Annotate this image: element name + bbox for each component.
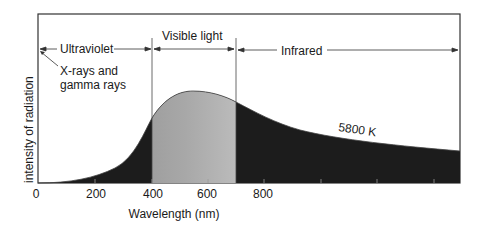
x-tick-600: 600 xyxy=(197,187,217,201)
curve-temperature-label: 5800 K xyxy=(338,120,378,139)
x-tick-800: 800 xyxy=(253,187,273,201)
x-tick-200: 200 xyxy=(86,187,106,201)
blackbody-chart: Ultraviolet Visible light Infrared X-ray… xyxy=(0,0,484,230)
xrays-label-line1: X-rays and xyxy=(60,64,118,78)
x-axis-label: Wavelength (nm) xyxy=(129,207,220,221)
xrays-label-line2: gamma rays xyxy=(60,78,126,92)
ultraviolet-label: Ultraviolet xyxy=(60,42,114,56)
x-tick-0: 0 xyxy=(33,187,40,201)
spectrum-area xyxy=(38,91,460,183)
y-axis-label: intensity of radiation xyxy=(22,76,36,183)
infrared-label: Infrared xyxy=(281,44,322,58)
x-tick-400: 400 xyxy=(143,187,163,201)
visible-arrow xyxy=(154,47,234,51)
xray-pointer xyxy=(41,52,58,66)
visible-light-label: Visible light xyxy=(162,29,223,43)
infrared-arrow xyxy=(238,48,458,52)
